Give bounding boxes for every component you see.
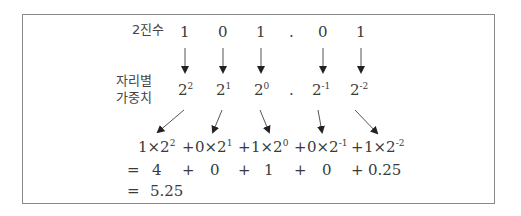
arrow-diagonal-icon <box>318 110 322 132</box>
plus-sign: + <box>294 140 307 155</box>
value-3: 1 <box>264 163 274 178</box>
plus-sign: + <box>351 140 364 155</box>
arrow-diagonal-icon <box>260 110 269 132</box>
result-value: 5.25 <box>150 184 183 199</box>
term-3: 1×20 <box>251 140 288 155</box>
plus-sign: + <box>182 140 195 155</box>
plus-sign: + <box>294 163 307 178</box>
term-4: 0×2-1 <box>307 140 347 155</box>
value-4: 0 <box>322 163 332 178</box>
arrows-layer <box>0 0 521 216</box>
value-1: 4 <box>152 163 162 178</box>
plus-sign: + <box>238 140 251 155</box>
equals-sign: = <box>127 184 140 199</box>
arrow-diagonal-icon <box>355 110 377 133</box>
plus-sign: + <box>182 163 195 178</box>
equals-sign: = <box>127 163 140 178</box>
arrow-diagonal-icon <box>213 110 222 132</box>
term-5: 1×2-2 <box>364 140 404 155</box>
plus-sign: + <box>238 163 251 178</box>
term-1: 1×22 <box>138 140 175 155</box>
value-5: 0.25 <box>368 163 401 178</box>
arrow-diagonal-icon <box>158 110 184 132</box>
term-2: 0×21 <box>195 140 232 155</box>
value-2: 0 <box>210 163 220 178</box>
plus-sign: + <box>351 163 364 178</box>
